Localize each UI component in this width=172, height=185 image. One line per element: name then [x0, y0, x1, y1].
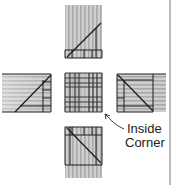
center-plaid-block [65, 73, 102, 112]
quilt-diagram: Inside Corner [0, 0, 172, 185]
annotation-line2: Corner [125, 135, 165, 150]
inside-corner-annotation: Inside Corner [105, 114, 165, 150]
bottom-border-piece [65, 127, 102, 178]
left-border-piece [2, 74, 51, 112]
callout-arrow [106, 115, 124, 129]
right-border-piece [117, 74, 166, 112]
top-border-piece [65, 5, 102, 58]
annotation-line1: Inside [127, 121, 162, 136]
